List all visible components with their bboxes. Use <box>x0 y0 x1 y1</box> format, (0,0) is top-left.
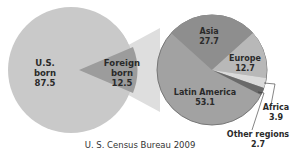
label-africa: Africa <box>263 103 290 112</box>
label-foreign-born: Foreign <box>104 58 140 68</box>
svg-text:born: born <box>34 68 56 78</box>
svg-text:3.9: 3.9 <box>269 113 284 122</box>
svg-text:87.5: 87.5 <box>35 78 56 88</box>
svg-text:12.7: 12.7 <box>235 64 255 73</box>
pie-of-pie-chart: U.S. born 87.5 Foreign born 12.5 Asia 27… <box>0 0 303 165</box>
svg-text:2.7: 2.7 <box>251 140 265 149</box>
leader-africa <box>264 83 275 105</box>
label-asia: Asia <box>199 27 218 36</box>
label-other-regions: Other regions <box>227 130 290 139</box>
label-us-born: U.S. <box>35 58 54 68</box>
label-latin-america: Latin America <box>174 88 236 97</box>
svg-text:12.5: 12.5 <box>112 78 133 88</box>
svg-text:27.7: 27.7 <box>199 37 219 46</box>
label-europe: Europe <box>229 54 261 63</box>
svg-text:born: born <box>111 68 133 78</box>
source-caption: U. S. Census Bureau 2009 <box>85 140 196 150</box>
svg-text:53.1: 53.1 <box>195 98 215 107</box>
